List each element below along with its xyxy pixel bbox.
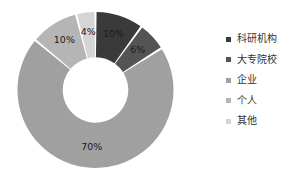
donut-plot-area: 10%6%70%10%4%: [10, 2, 182, 177]
legend-swatch-icon: [226, 78, 231, 83]
legend-item-label: 企业: [237, 74, 257, 86]
legend-swatch-icon: [226, 57, 231, 62]
donut-chart: 10%6%70%10%4% 科研机构大专院校企业个人其他: [0, 0, 301, 177]
slice-data-label: 10%: [103, 28, 124, 39]
legend-swatch-icon: [226, 37, 231, 42]
donut-svg: 10%6%70%10%4%: [10, 2, 182, 177]
legend-item-label: 科研机构: [237, 33, 277, 45]
legend-item-label: 大专院校: [237, 54, 277, 66]
legend-item[interactable]: 科研机构: [226, 33, 301, 45]
legend-swatch-icon: [226, 98, 231, 103]
slice-data-label: 10%: [54, 34, 75, 45]
legend-item[interactable]: 其他: [226, 115, 301, 127]
legend-swatch-icon: [226, 119, 231, 124]
legend-item[interactable]: 大专院校: [226, 54, 301, 66]
legend-item[interactable]: 企业: [226, 74, 301, 86]
slice-data-label: 70%: [81, 141, 102, 152]
slice-data-label: 6%: [130, 44, 145, 55]
legend-item[interactable]: 个人: [226, 95, 301, 107]
chart-legend: 科研机构大专院校企业个人其他: [226, 33, 301, 127]
legend-item-label: 其他: [237, 115, 257, 127]
slice-data-label: 4%: [81, 26, 96, 37]
legend-item-label: 个人: [237, 95, 257, 107]
